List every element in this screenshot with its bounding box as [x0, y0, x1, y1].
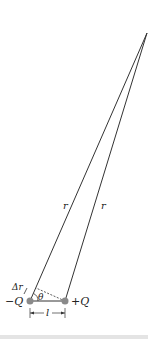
label-r-right: r — [101, 200, 107, 211]
label-r-left: r — [63, 200, 69, 211]
negative-charge — [27, 298, 34, 305]
arrow-left-icon — [30, 312, 34, 315]
label-delta-r: Δr — [11, 282, 23, 292]
label-pos-charge: +Q — [71, 295, 89, 308]
positive-charge — [62, 298, 69, 305]
arrow-right-icon — [61, 312, 65, 315]
cut-off-caption — [0, 335, 148, 339]
label-neg-charge: −Q — [5, 295, 23, 308]
line-r-left — [30, 33, 147, 301]
label-theta: θ — [38, 292, 44, 302]
label-separation: l — [46, 307, 49, 318]
delta-r-tick — [24, 288, 27, 294]
dipole-diagram: r r Δr θ −Q +Q l — [0, 0, 148, 339]
line-r-right — [65, 33, 147, 301]
